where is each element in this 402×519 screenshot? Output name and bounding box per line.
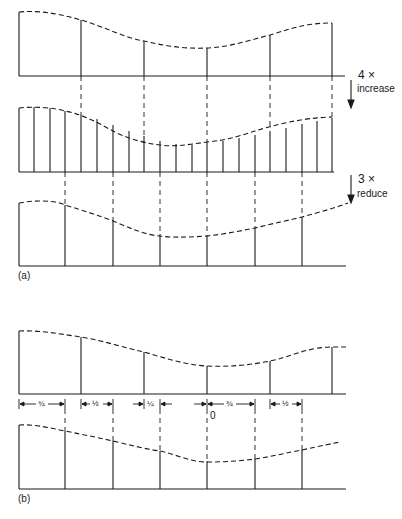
offset-label: ¼	[146, 399, 155, 408]
envelope-curve	[19, 201, 348, 237]
arrow-increase	[348, 80, 354, 108]
arrow-reduce	[348, 175, 354, 203]
envelope-curve	[19, 425, 340, 462]
envelope-curve	[19, 331, 346, 366]
increase-action-label: increase	[357, 83, 395, 94]
offset-zero-label: 0	[210, 410, 216, 421]
reduce-action-label: reduce	[357, 188, 388, 199]
panel-a-label: (a)	[18, 270, 30, 281]
envelope-curve	[19, 107, 332, 146]
panel-b-resampled-signal	[19, 425, 346, 489]
panel-a-upsampled-signal	[19, 107, 334, 172]
panel-b-original-signal	[19, 331, 346, 394]
offset-label: ½	[281, 399, 290, 408]
panel-b-label: (b)	[18, 493, 30, 504]
offset-label: ½	[91, 399, 100, 408]
guide-lines-a2	[65, 172, 302, 236]
envelope-curve	[19, 11, 332, 48]
panel-a-downsampled-signal	[19, 201, 348, 266]
offset-dimensions	[19, 399, 302, 409]
reduce-factor-label: 3 ×	[358, 174, 375, 185]
guide-lines-a1	[81, 76, 332, 142]
resampling-diagram	[0, 0, 402, 519]
increase-factor-label: 4 ×	[358, 70, 375, 81]
offset-label: ¾	[225, 399, 234, 408]
guide-lines-b	[65, 409, 302, 461]
panel-a-original-signal	[19, 11, 345, 76]
offset-label: ¾	[37, 399, 46, 408]
